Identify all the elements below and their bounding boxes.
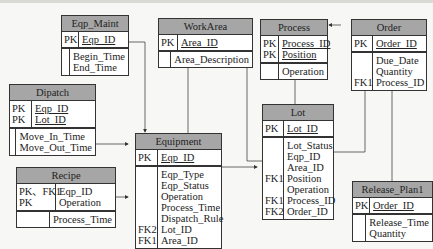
key-labels: PK: [263, 121, 284, 136]
entity-equipment[interactable]: Equipment PK Eqp_ID FK2 FK1 Eqp_Type Eqp…: [135, 133, 222, 249]
key-labels: PK PK: [261, 36, 279, 62]
entity-eqp-maint[interactable]: Eqp_Maint PK Eqp_ID Begin_Time End_Time: [61, 15, 129, 76]
entity-title: Eqp_Maint: [62, 16, 128, 32]
entity-title: Release_Plan1: [353, 182, 432, 198]
pk-attribute: Eqp_ID: [82, 34, 115, 45]
pk-attribute: Position: [282, 49, 316, 60]
attributes: Process_Time: [50, 212, 115, 227]
key-labels: PK、FK1 PK: [17, 184, 56, 210]
attributes: Operation: [279, 64, 327, 79]
pk-row: PK Area_ID: [159, 35, 252, 51]
attributes: Due_Date Quantity Process_ID: [373, 53, 427, 90]
entity-release-plan1[interactable]: Release_Plan1 PK Order_ID Release_Time Q…: [352, 181, 433, 242]
key-labels: PK: [159, 35, 178, 50]
key-labels: FK1 FK1 FK2: [263, 138, 284, 219]
pk-row: PK Order_ID: [352, 36, 426, 52]
pk-attribute: Order_ID: [376, 38, 417, 49]
pk-attribute: Eqp_ID: [161, 152, 194, 163]
key-labels: PK: [352, 36, 373, 51]
attr-row: Begin_Time End_Time: [62, 48, 128, 75]
entity-lot[interactable]: Lot PK Lot_ID FK1 FK1 FK2 Lot_Status Eqp…: [262, 104, 334, 220]
entity-title: Lot: [263, 105, 333, 121]
attr-row: Process_Time: [17, 211, 115, 227]
entity-title: Order: [352, 20, 426, 36]
attr-row: Operation: [261, 63, 327, 79]
entity-title: WorkArea: [159, 19, 252, 35]
key-labels: FK2 FK1: [136, 167, 158, 248]
entity-process[interactable]: Process PK PK Process_IDPosition Operati…: [260, 19, 328, 80]
key-labels: PK: [62, 32, 79, 47]
key-labels: [62, 49, 70, 75]
entity-order[interactable]: Order PK Order_ID FK1 Due_Date Quantity …: [351, 19, 427, 91]
attr-row: FK1 FK1 FK2 Lot_Status Eqp_ID Area_ID Po…: [263, 137, 333, 219]
pk-row: PK Eqp_ID: [136, 150, 221, 166]
key-labels: [159, 52, 171, 67]
attributes: Release_Time Quantity: [366, 215, 432, 241]
key-labels: PK PK: [10, 101, 32, 127]
key-labels: [353, 215, 366, 241]
pk-row: PK Lot_ID: [263, 121, 333, 137]
attributes: Area_Description: [171, 52, 252, 67]
attributes: Begin_Time End_Time: [70, 49, 128, 75]
pk-attribute: Operation: [59, 197, 101, 208]
attr-row: FK2 FK1 Eqp_Type Eqp_Status Operation Pr…: [136, 166, 221, 248]
attributes: Move_In_Time Move_Out_Time: [16, 129, 95, 155]
entity-title: Recipe: [17, 168, 115, 184]
attr-row: Release_Time Quantity: [353, 214, 432, 241]
pk-attribute: Area_ID: [181, 37, 218, 48]
attr-row: FK1 Due_Date Quantity Process_ID: [352, 52, 426, 90]
entity-title: Process: [261, 20, 327, 36]
pk-attribute: Process_ID: [282, 38, 330, 49]
pk-row: PK PK Eqp_IDLot_ID: [10, 101, 95, 128]
pk-attribute: Lot_ID: [287, 123, 318, 134]
key-labels: PK: [353, 198, 370, 213]
key-labels: FK1: [352, 53, 373, 90]
entity-workarea[interactable]: WorkArea PK Area_ID Area_Description: [158, 18, 253, 68]
key-labels: PK: [136, 150, 158, 165]
pk-row: PK Eqp_ID: [62, 32, 128, 48]
entity-title: Dipatch: [10, 85, 95, 101]
pk-row: PK PK Process_IDPosition: [261, 36, 327, 63]
pk-attribute: Eqp_ID: [59, 186, 92, 197]
entity-title: Equipment: [136, 134, 221, 150]
attr-row: Move_In_Time Move_Out_Time: [10, 128, 95, 155]
key-labels: [261, 64, 279, 79]
attributes: Eqp_Type Eqp_Status Operation Process_Ti…: [158, 167, 226, 248]
attributes: Lot_Status Eqp_ID Area_ID Position Opera…: [284, 138, 338, 219]
pk-attribute: Eqp_ID: [35, 103, 68, 114]
pk-row: PK、FK1 PK Eqp_IDOperation: [17, 184, 115, 211]
pk-row: PK Order_ID: [353, 198, 432, 214]
pk-attribute: Lot_ID: [35, 114, 66, 125]
attr-row: Area_Description: [159, 51, 252, 67]
pk-attribute: Order_ID: [373, 200, 414, 211]
entity-recipe[interactable]: Recipe PK、FK1 PK Eqp_IDOperation Process…: [16, 167, 116, 228]
key-labels: [17, 212, 50, 227]
entity-dipatch[interactable]: Dipatch PK PK Eqp_IDLot_ID Move_In_Time …: [9, 84, 96, 156]
